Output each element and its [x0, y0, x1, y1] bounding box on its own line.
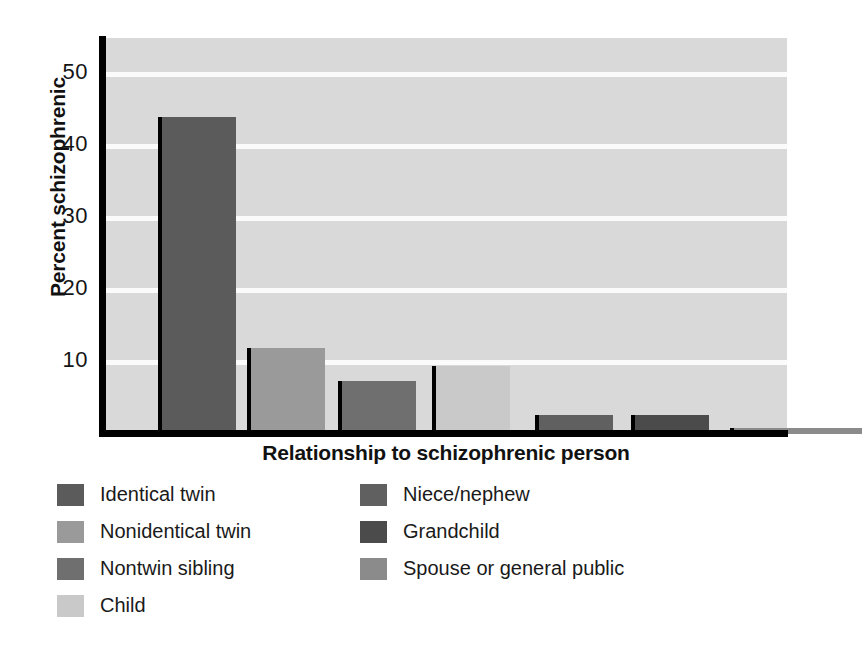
legend-label: Niece/nephew: [403, 483, 530, 506]
legend-swatch: [57, 484, 84, 506]
legend-item: Niece/nephew: [360, 476, 750, 513]
legend-swatch: [57, 521, 84, 543]
y-tick-label: 30: [40, 203, 88, 229]
legend-item: Spouse or general public: [360, 550, 750, 587]
x-axis-line: [99, 430, 788, 437]
legend-label: Grandchild: [403, 520, 500, 543]
legend-swatch: [57, 558, 84, 580]
bar: [432, 366, 510, 434]
legend-label: Identical twin: [100, 483, 216, 506]
legend-swatch: [360, 521, 387, 543]
bar: [338, 381, 416, 434]
legend-label: Spouse or general public: [403, 557, 624, 580]
bar: [247, 348, 325, 434]
legend-swatch: [360, 558, 387, 580]
y-axis-line: [99, 36, 106, 436]
y-tick-label: 50: [40, 59, 88, 85]
bar: [158, 117, 236, 434]
legend-label: Nontwin sibling: [100, 557, 235, 580]
legend-item: Nonidentical twin: [57, 513, 337, 550]
x-axis-title: Relationship to schizophrenic person: [105, 441, 787, 465]
gridline: [105, 72, 787, 77]
legend-swatch: [360, 484, 387, 506]
legend-label: Nonidentical twin: [100, 520, 251, 543]
y-tick-label: 20: [40, 275, 88, 301]
y-tick-label: 10: [40, 347, 88, 373]
legend-swatch: [57, 595, 84, 617]
y-tick-label: 40: [40, 131, 88, 157]
legend-column-left: Identical twinNonidentical twinNontwin s…: [57, 476, 337, 624]
legend-label: Child: [100, 594, 146, 617]
legend-item: Nontwin sibling: [57, 550, 337, 587]
legend-item: Child: [57, 587, 337, 624]
legend-item: Identical twin: [57, 476, 337, 513]
legend-column-right: Niece/nephewGrandchildSpouse or general …: [360, 476, 750, 587]
legend-item: Grandchild: [360, 513, 750, 550]
plot-area: [105, 38, 787, 434]
